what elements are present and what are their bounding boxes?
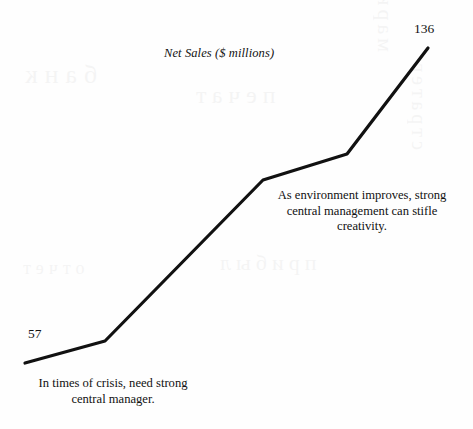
chart-title: Net Sales ($ millions) [164,46,274,61]
annotation-bottom-left: In times of crisis, need strong central … [20,376,206,407]
annotation-middle-right: As environment improves, strong central … [266,188,458,235]
start-value-label: 57 [28,326,42,342]
end-value-label: 136 [414,21,434,37]
figure-canvas: банк печат прибыл маркетинг стратег отче… [0,0,473,429]
